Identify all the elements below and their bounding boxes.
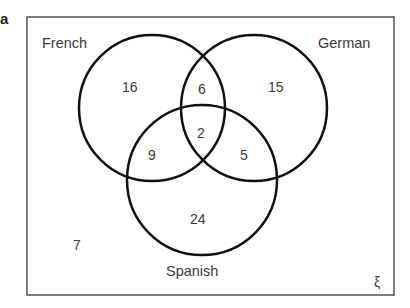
region-spanish-only: 24 <box>190 211 206 227</box>
spanish-label: Spanish <box>166 263 218 279</box>
region-outside: 7 <box>73 237 81 253</box>
universal-set-symbol: ξ <box>374 274 380 290</box>
german-circle <box>181 35 327 181</box>
region-french-spanish: 9 <box>148 147 156 163</box>
region-french-german: 6 <box>198 81 206 97</box>
french-label: French <box>42 35 87 51</box>
region-german-only: 15 <box>268 79 284 95</box>
venn-diagram: French German Spanish ξ 16 15 6 2 9 5 24… <box>0 0 410 308</box>
region-all-three: 2 <box>197 125 205 141</box>
region-french-only: 16 <box>122 79 138 95</box>
region-german-spanish: 5 <box>240 147 248 163</box>
german-label: German <box>318 35 370 51</box>
